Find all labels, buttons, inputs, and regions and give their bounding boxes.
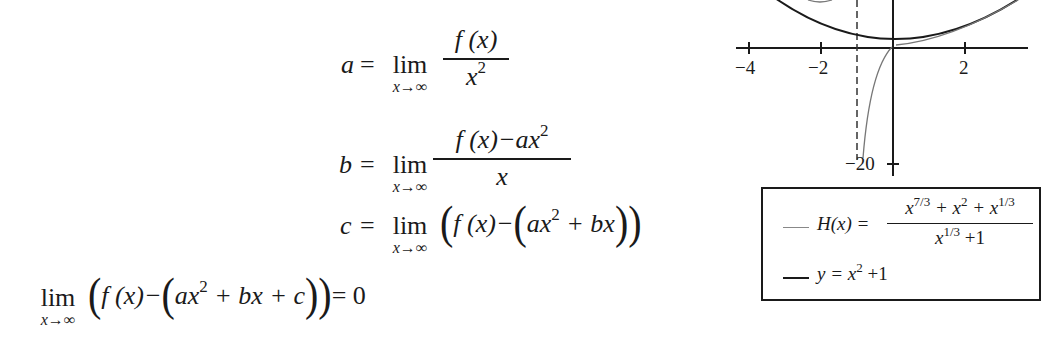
x-tick-label: −4	[735, 57, 755, 79]
lim-word: lim	[30, 285, 86, 311]
eq-c-lhs: c	[340, 211, 352, 241]
residual-limit: lim x→∞	[30, 285, 86, 329]
lim-subscript: x→∞	[30, 311, 86, 329]
parabola-legend-swatch	[783, 277, 809, 279]
h-legend-swatch	[783, 227, 809, 228]
lim-word: lim	[382, 52, 438, 78]
chart-legend: H(x) = x7/3 + x2 + x1/3 x1/3 +1 y = x2 +…	[761, 187, 1041, 301]
x-tick-label: 2	[959, 57, 969, 79]
eq-b-denominator: x	[433, 160, 571, 194]
eq-b-equals: =	[360, 150, 375, 180]
d2: +1	[960, 227, 985, 248]
n3: + x	[967, 197, 998, 218]
h-numerator: x7/3 + x2 + x1/3	[887, 195, 1033, 224]
eq-b-fraction: f (x)−ax2 x	[433, 124, 571, 194]
rhs: = 0	[332, 281, 366, 310]
paren-open: (	[88, 278, 101, 313]
body-part3: + bx	[560, 209, 615, 238]
body-exp: 2	[551, 205, 560, 224]
h-label: H(x) =	[817, 213, 869, 234]
body-part3: + bx + c	[208, 281, 305, 310]
lim-word: lim	[382, 213, 438, 239]
eq-c-limit: lim x→∞	[382, 213, 438, 257]
legend-y-label: y = x2 +1	[817, 263, 888, 285]
body-part2: ax	[527, 209, 552, 238]
residual-body: (f (x)−(ax2 + bx + c))= 0	[88, 280, 366, 311]
eq-a-fraction: f (x) x2	[443, 24, 509, 94]
den-exp: 2	[478, 58, 487, 77]
n1: x	[905, 197, 913, 218]
num-exp: 2	[540, 121, 549, 140]
lim-subscript: x→∞	[382, 78, 438, 96]
x-tick-label: −2	[808, 57, 828, 79]
h-curve-left	[863, 47, 892, 158]
body-part1: f (x)−	[101, 281, 161, 310]
h-denominator: x1/3 +1	[887, 224, 1033, 252]
n2: + x	[930, 197, 961, 218]
eq-a-limit: lim x→∞	[382, 52, 438, 96]
paren-close: ))	[615, 206, 642, 241]
num-text: f (x)−ax	[455, 125, 540, 154]
lim-word: lim	[382, 152, 438, 178]
body-part1: f (x)−	[453, 209, 513, 238]
e3: 1/3	[998, 194, 1015, 209]
y-tick-label: −20	[845, 153, 875, 175]
den-base: x	[466, 62, 478, 91]
paren-close: ))	[305, 278, 332, 313]
paren-open-inner: (	[513, 206, 526, 241]
legend-h-fraction: x7/3 + x2 + x1/3 x1/3 +1	[887, 195, 1033, 252]
body-part2: ax	[175, 281, 200, 310]
body-exp: 2	[199, 277, 208, 296]
eq-a-denominator: x2	[443, 60, 509, 94]
lim-subscript: x→∞	[382, 239, 438, 257]
de: 1/3	[943, 224, 960, 239]
h-curve-top-fragment	[808, 0, 832, 2]
y1: y = x	[817, 263, 856, 284]
eq-a-lhs: a	[341, 50, 354, 80]
eq-a-numerator: f (x)	[443, 24, 509, 60]
eq-b-numerator: f (x)−ax2	[433, 124, 571, 160]
e1: 7/3	[914, 194, 931, 209]
eq-b-lhs: b	[339, 150, 352, 180]
parabola-curve	[775, 0, 1020, 39]
lim-subscript: x→∞	[382, 178, 438, 196]
eq-c-equals: =	[360, 211, 375, 241]
eq-c-body: (f (x)−(ax2 + bx))	[440, 208, 642, 239]
paren-open-inner: (	[161, 278, 174, 313]
eq-b-limit: lim x→∞	[382, 152, 438, 196]
eq-a-equals: =	[360, 50, 375, 80]
paren-open: (	[440, 206, 453, 241]
y2: +1	[863, 263, 888, 284]
legend-h-label: H(x) =	[817, 213, 869, 235]
